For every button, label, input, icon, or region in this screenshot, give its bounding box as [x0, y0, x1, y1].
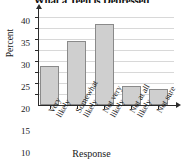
y-tick-label: 25 [21, 87, 30, 88]
chart-title: What a Teen is Depressed [0, 0, 183, 3]
y-tick-label: 30 [21, 65, 30, 66]
y-tick-label: 35 [21, 43, 30, 44]
y-tickmark: 15 [35, 72, 39, 73]
bar-chart-figure: What a Teen is Depressed Percent 5101520… [0, 0, 183, 163]
y-tick-label: 15 [21, 131, 30, 132]
y-axis-arrow-icon [36, 4, 42, 9]
y-tickmark: 10 [35, 83, 39, 84]
y-tickmark: 30 [35, 39, 39, 40]
y-tickmark: 40 [35, 17, 39, 18]
y-tickmark: 35 [35, 28, 39, 29]
y-tick-label: 40 [21, 21, 30, 22]
y-tickmark: 25 [35, 50, 39, 51]
gridline [38, 17, 174, 18]
x-axis-label: Response [0, 148, 183, 159]
y-tickmark: 20 [35, 61, 39, 62]
y-axis-line [38, 8, 39, 105]
x-axis-arrow-icon [176, 102, 181, 108]
y-tick-label: 20 [21, 109, 30, 110]
y-axis-label: Percent [5, 20, 15, 66]
y-tickmark: 5 [35, 94, 39, 95]
